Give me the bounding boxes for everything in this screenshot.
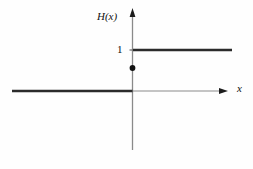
x-axis-label: x [237, 83, 242, 94]
y-axis-label: H(x) [97, 11, 117, 22]
plot-canvas [0, 0, 253, 169]
origin-value-point [130, 65, 136, 71]
y-tick-label-one: 1 [117, 44, 123, 55]
x-axis-arrowhead [219, 88, 228, 94]
y-axis-arrowhead [130, 8, 136, 17]
heaviside-step-function-figure: H(x) x 1 [0, 0, 253, 169]
